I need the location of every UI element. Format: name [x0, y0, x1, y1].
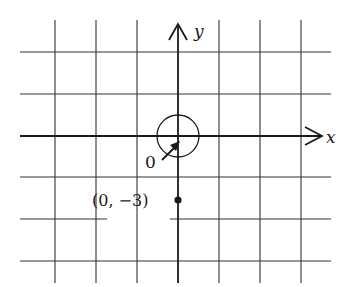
axes: [20, 24, 322, 283]
x-axis-label: x: [326, 127, 336, 147]
coordinate-plane: y x 0 (0, −3): [0, 0, 342, 287]
grid: [20, 20, 331, 283]
point-marker: [174, 196, 181, 203]
y-axis-label: y: [193, 21, 204, 41]
origin-label: 0: [145, 152, 156, 172]
point-label: (0, −3): [92, 191, 148, 210]
